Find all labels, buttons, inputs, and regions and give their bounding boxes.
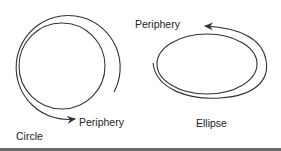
circle-label: Circle [16,131,43,142]
ellipse-shape [153,26,267,98]
circle-shape [16,15,120,119]
ellipse-label: Ellipse [196,118,227,129]
ellipse-periphery-label: Periphery [135,19,180,30]
bottom-rule [0,148,281,151]
ellipse-periphery-arrow [153,26,267,98]
circle-periphery-label: Periphery [79,117,124,128]
